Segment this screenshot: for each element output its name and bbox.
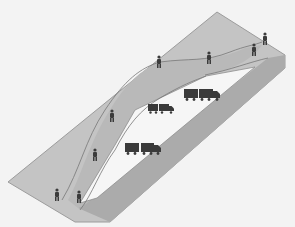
road-diagram — [0, 0, 295, 227]
diagram-canvas — [0, 0, 295, 227]
